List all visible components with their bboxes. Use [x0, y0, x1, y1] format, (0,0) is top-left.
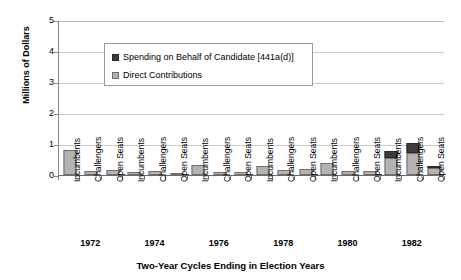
x-category-label-incumbents: Incumbents [330, 138, 339, 182]
x-axis-title: Two-Year Cycles Ending in Election Years [0, 260, 461, 271]
x-year-label-1974: 1974 [125, 238, 185, 248]
x-category-label-open-seats: Open Seats [116, 137, 125, 182]
y-tick-label-2: 2 [14, 109, 54, 118]
x-year-label-1982: 1982 [382, 238, 442, 248]
chart-container: Millions of Dollars 012345 IncumbentsCha… [0, 0, 461, 280]
x-category-label-challengers: Challengers [287, 137, 296, 182]
x-category-label-incumbents: Incumbents [73, 138, 82, 182]
x-category-label-incumbents: Incumbents [201, 138, 210, 182]
legend-label-441ad: Spending on Behalf of Candidate [441a(d)… [123, 52, 294, 62]
light-gray-swatch-icon [112, 72, 119, 79]
x-category-label-open-seats: Open Seats [437, 137, 446, 182]
chart-legend: Spending on Behalf of Candidate [441a(d)… [104, 43, 313, 86]
x-category-label-incumbents: Incumbents [394, 138, 403, 182]
x-category-label-open-seats: Open Seats [309, 137, 318, 182]
x-category-label-challengers: Challengers [416, 137, 425, 182]
legend-label-direct-contributions: Direct Contributions [123, 70, 202, 80]
x-category-label-open-seats: Open Seats [180, 137, 189, 182]
x-tick-mark [58, 176, 59, 180]
x-year-label-1980: 1980 [318, 238, 378, 248]
x-category-label-open-seats: Open Seats [244, 137, 253, 182]
y-tick-label-5: 5 [14, 16, 54, 25]
legend-item-441ad: Spending on Behalf of Candidate [441a(d)… [112, 49, 312, 65]
x-category-label-challengers: Challengers [223, 137, 232, 182]
x-year-label-1972: 1972 [60, 238, 120, 248]
dark-gray-swatch-icon [112, 54, 119, 61]
y-axis-ticks: 012345 [10, 21, 54, 176]
x-year-label-1976: 1976 [189, 238, 249, 248]
x-year-label-1978: 1978 [253, 238, 313, 248]
x-category-label-challengers: Challengers [352, 137, 361, 182]
y-tick-label-4: 4 [14, 47, 54, 56]
y-tick-label-1: 1 [14, 140, 54, 149]
x-category-label-incumbents: Incumbents [266, 138, 275, 182]
y-tick-label-0: 0 [14, 171, 54, 180]
legend-item-direct-contributions: Direct Contributions [112, 67, 312, 83]
x-category-label-challengers: Challengers [94, 137, 103, 182]
x-category-label-incumbents: Incumbents [137, 138, 146, 182]
x-category-label-challengers: Challengers [159, 137, 168, 182]
x-category-label-open-seats: Open Seats [373, 137, 382, 182]
y-tick-label-3: 3 [14, 78, 54, 87]
